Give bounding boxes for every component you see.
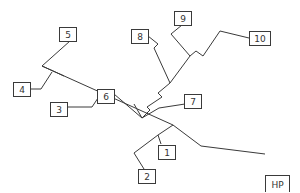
node-label: 3 [56,105,62,115]
node-n3: 3 [51,103,68,117]
tree-branch-hp-clade [158,125,173,135]
node-label: 7 [190,97,196,107]
node-n5: 5 [60,28,77,42]
node-label: 9 [180,14,186,24]
node-n2: 2 [139,170,156,184]
node-n4: 4 [14,83,31,97]
node-label: 1 [164,148,170,158]
tree-branch-n3 [67,92,102,107]
tree-branch-n4 [30,72,52,89]
node-n8: 8 [132,30,149,44]
node-label: 10 [254,34,266,44]
tree-branch-backbone [42,66,265,154]
tree-branch-n1 [158,135,161,144]
node-label: 5 [65,30,71,40]
phylogenetic-tree: 12345678910HP [0,0,300,192]
node-n1: 1 [159,146,176,160]
tree-branch-n8 [148,36,170,83]
node-label: 8 [137,32,143,42]
tree-branch-n5 [42,41,70,76]
tree-branch-n9 [171,25,190,56]
node-n9: 9 [175,12,192,26]
node-label: 6 [103,92,109,102]
tree-branch-n8-9-10 [170,56,190,83]
node-hp: HP [266,176,290,193]
node-label: 2 [144,172,150,182]
node-n10: 10 [250,32,271,46]
node-n6: 6 [98,90,115,104]
node-n7: 7 [185,95,202,109]
tree-branch-n2 [134,135,158,169]
tree-branch-n10 [190,31,249,56]
tree-edges [30,25,265,169]
node-label: HP [271,180,284,190]
node-label: 4 [19,85,25,95]
